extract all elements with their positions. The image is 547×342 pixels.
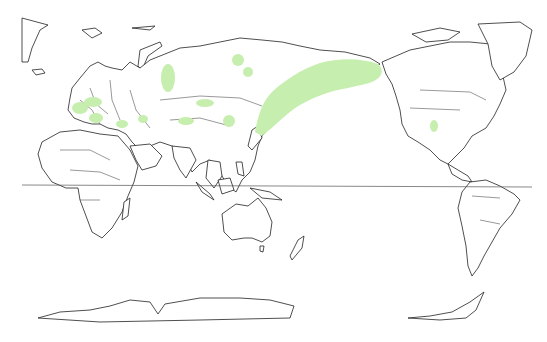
new-zealand xyxy=(290,236,304,260)
range-black-sea xyxy=(116,120,128,128)
range-us-midwest xyxy=(430,120,438,132)
antarctica-west xyxy=(38,298,294,322)
range-kazakhstan xyxy=(196,99,214,107)
range-central-asia xyxy=(178,117,194,125)
svalbard xyxy=(82,28,102,38)
range-caucasus xyxy=(138,115,148,123)
australia xyxy=(222,198,272,242)
range-west-siberia xyxy=(161,64,175,92)
new-guinea xyxy=(250,188,282,200)
iceland xyxy=(32,69,45,75)
range-italy-balkans xyxy=(89,113,103,123)
range-mongolia xyxy=(223,115,235,127)
central-america xyxy=(448,164,472,182)
range-central-europe xyxy=(84,97,102,107)
greenland-west xyxy=(22,18,48,62)
arctic-archipelago xyxy=(412,28,460,42)
north-america xyxy=(382,42,506,164)
range-north-siberia-1 xyxy=(232,54,244,66)
south-america xyxy=(458,180,520,276)
africa xyxy=(38,130,138,238)
tasmania xyxy=(260,246,264,252)
world-map xyxy=(0,0,547,342)
antarctica-east xyxy=(408,292,484,320)
range-north-siberia-2 xyxy=(243,67,253,77)
map-canvas xyxy=(0,0,547,342)
franz-josef xyxy=(132,26,155,30)
